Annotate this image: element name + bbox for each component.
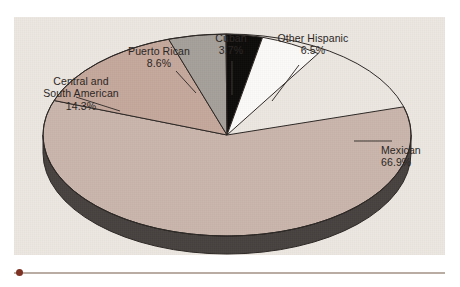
slice-value-puerto-rican: 8.6% bbox=[115, 57, 203, 69]
slice-value-cuban: 3.7% bbox=[203, 44, 259, 56]
slice-value-central-south-american: 14.3% bbox=[22, 100, 140, 112]
slice-label-puerto-rican: Puerto Rican 8.6% bbox=[115, 45, 203, 70]
slice-label-line1: Puerto Rican bbox=[115, 45, 203, 57]
slice-label-line1: Cuban bbox=[203, 32, 259, 44]
slice-label-line2: South American bbox=[22, 87, 140, 99]
slice-value-other-hispanic: 6.5% bbox=[261, 44, 365, 56]
slice-label-line1: Mexican bbox=[381, 144, 445, 156]
footer-rule bbox=[14, 272, 445, 274]
chart-panel: Central and South American 14.3% Puerto … bbox=[14, 17, 445, 255]
slice-label-line1: Other Hispanic bbox=[261, 32, 365, 44]
slice-value-mexican: 66.9% bbox=[381, 156, 445, 168]
slice-label-other-hispanic: Other Hispanic 6.5% bbox=[261, 32, 365, 57]
slice-label-line1: Central and bbox=[22, 75, 140, 87]
figure-root: Central and South American 14.3% Puerto … bbox=[0, 0, 460, 287]
footer-bullet-dot bbox=[16, 269, 23, 276]
pie-chart: Central and South American 14.3% Puerto … bbox=[14, 17, 445, 255]
slice-label-mexican: Mexican 66.9% bbox=[381, 144, 445, 169]
slice-label-central-south-american: Central and South American 14.3% bbox=[22, 75, 140, 112]
slice-label-cuban: Cuban 3.7% bbox=[203, 32, 259, 57]
